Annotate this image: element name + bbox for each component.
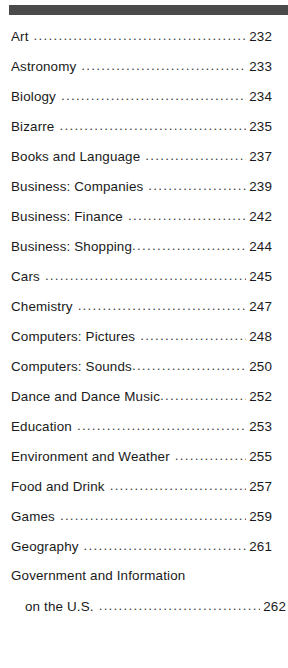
- toc-entry-line: Food and Drink257: [11, 478, 272, 508]
- toc-entry-page-number: 252: [246, 389, 272, 404]
- toc-entry-label: Astronomy: [11, 59, 81, 74]
- toc-entry-label: Business: Shopping: [11, 239, 132, 254]
- toc-entry-page-number: 253: [246, 419, 272, 434]
- toc-entry-page-number: 250: [246, 359, 272, 374]
- toc-entry-label: Government and Information: [11, 568, 185, 583]
- toc-entry-line: on the U.S.262: [11, 598, 286, 628]
- dot-leader: [59, 118, 246, 131]
- toc-entry-page-number: 255: [246, 449, 272, 464]
- dot-leader: [132, 358, 246, 371]
- toc-entry-line: Environment and Weather255: [11, 448, 272, 478]
- toc-entry-line: Cars245: [11, 268, 272, 298]
- toc-entry[interactable]: Education253: [11, 418, 272, 448]
- toc-entry-label: Food and Drink: [11, 479, 110, 494]
- toc-entry[interactable]: Art232: [11, 28, 272, 58]
- toc-entry[interactable]: Geography261: [11, 538, 272, 568]
- dot-leader: [34, 28, 246, 41]
- toc-entry-page-number: 262: [260, 599, 286, 614]
- toc-entry[interactable]: Biology234: [11, 88, 272, 118]
- dot-leader: [148, 178, 246, 191]
- dot-leader: [61, 88, 246, 101]
- toc-entry[interactable]: Computers: Pictures248: [11, 328, 272, 358]
- toc-entry[interactable]: Food and Drink257: [11, 478, 272, 508]
- dot-leader: [132, 238, 246, 251]
- toc-entry-label: Bizarre: [11, 119, 59, 134]
- toc-entry-label: Business: Finance: [11, 209, 128, 224]
- toc-entry-page-number: 235: [246, 119, 272, 134]
- toc-entry-line: Dance and Dance Music252: [11, 388, 272, 418]
- toc-entry-page-number: 261: [246, 539, 272, 554]
- toc-entry-page-number: 259: [246, 509, 272, 524]
- toc-entry-page-number: 244: [246, 239, 272, 254]
- toc-entry-label: Biology: [11, 89, 61, 104]
- dot-leader: [110, 478, 246, 491]
- toc-entry-label: Environment and Weather: [11, 449, 175, 464]
- toc-entry-page-number: 234: [246, 89, 272, 104]
- toc-entry-line: Art232: [11, 28, 272, 58]
- dot-leader: [77, 418, 246, 431]
- dot-leader: [128, 208, 246, 221]
- toc-entry-line: Bizarre235: [11, 118, 272, 148]
- toc-entry[interactable]: Business: Shopping244: [11, 238, 272, 268]
- toc-entry[interactable]: Environment and Weather255: [11, 448, 272, 478]
- toc-entry[interactable]: Chemistry247: [11, 298, 272, 328]
- toc-entry[interactable]: Bizarre235: [11, 118, 272, 148]
- toc-entry-line: Biology234: [11, 88, 272, 118]
- toc-entry-line: Games259: [11, 508, 272, 538]
- toc-entry-page-number: 248: [246, 329, 272, 344]
- toc-entry-line: Computers: Sounds250: [11, 358, 272, 388]
- toc-entry-label: Games: [11, 509, 60, 524]
- dot-leader: [60, 508, 246, 521]
- toc-entry-page-number: 245: [246, 269, 272, 284]
- dot-leader: [45, 268, 246, 281]
- toc-entry-label: Computers: Sounds: [11, 359, 132, 374]
- toc-entry-page-number: 232: [246, 29, 272, 44]
- toc-entry-line: Education253: [11, 418, 272, 448]
- toc-entry-label: Education: [11, 419, 77, 434]
- decorative-rule: [9, 5, 288, 15]
- toc-entry-line: Business: Finance242: [11, 208, 272, 238]
- toc-entry[interactable]: Dance and Dance Music252: [11, 388, 272, 418]
- toc-entry-label: Books and Language: [11, 149, 145, 164]
- dot-leader: [84, 538, 246, 551]
- toc-entry-line: Astronomy233: [11, 58, 272, 88]
- toc-entry[interactable]: Business: Companies239: [11, 178, 272, 208]
- table-of-contents-page: Art232Astronomy233Biology234Bizarre235Bo…: [0, 0, 288, 668]
- toc-entry-label: Computers: Pictures: [11, 329, 140, 344]
- toc-entry-label: Dance and Dance Music: [11, 389, 160, 404]
- toc-list: Art232Astronomy233Biology234Bizarre235Bo…: [11, 28, 272, 624]
- dot-leader: [160, 388, 246, 401]
- toc-entry-line: Chemistry247: [11, 298, 272, 328]
- toc-entry[interactable]: Business: Finance242: [11, 208, 272, 238]
- toc-entry-line: Business: Shopping244: [11, 238, 272, 268]
- toc-entry-line: Computers: Pictures248: [11, 328, 272, 358]
- toc-entry-page-number: 247: [246, 299, 272, 314]
- toc-entry-page-number: 242: [246, 209, 272, 224]
- toc-entry-label: Art: [11, 29, 34, 44]
- toc-entry-line: Government and Information: [11, 568, 272, 598]
- dot-leader: [81, 58, 246, 71]
- toc-entry-page-number: 233: [246, 59, 272, 74]
- dot-leader: [99, 598, 260, 611]
- dot-leader: [140, 328, 246, 341]
- toc-entry-page-number: 257: [246, 479, 272, 494]
- toc-entry-page-number: 237: [246, 149, 272, 164]
- toc-entry-page-number: 239: [246, 179, 272, 194]
- toc-entry-line: Books and Language237: [11, 148, 272, 178]
- toc-entry-label: Geography: [11, 539, 84, 554]
- toc-entry[interactable]: Government and Informationon the U.S.262: [11, 568, 272, 624]
- dot-leader: [145, 148, 246, 161]
- toc-entry[interactable]: Astronomy233: [11, 58, 272, 88]
- toc-entry[interactable]: Games259: [11, 508, 272, 538]
- toc-entry-label: Business: Companies: [11, 179, 148, 194]
- toc-entry-label: Chemistry: [11, 299, 78, 314]
- toc-entry-line: Geography261: [11, 538, 272, 568]
- toc-entry[interactable]: Computers: Sounds250: [11, 358, 272, 388]
- toc-entry[interactable]: Cars245: [11, 268, 272, 298]
- toc-entry[interactable]: Books and Language237: [11, 148, 272, 178]
- toc-entry-line: Business: Companies239: [11, 178, 272, 208]
- dot-leader: [175, 448, 246, 461]
- toc-entry-label: Cars: [11, 269, 45, 284]
- dot-leader: [78, 298, 246, 311]
- toc-entry-label-continued: on the U.S.: [25, 599, 99, 614]
